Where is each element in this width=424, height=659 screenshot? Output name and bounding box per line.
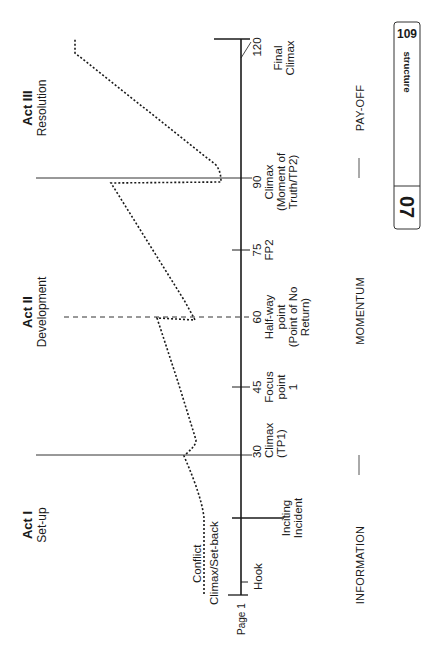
final-climax-label: Final Climax: [272, 40, 296, 75]
svg-text:(Point of No: (Point of No: [287, 287, 299, 348]
phase-momentum: MOMENTUM: [354, 277, 366, 345]
marker-90-label: 90 Climax (Moment of Truth/TP2): [251, 152, 299, 211]
svg-text:FP2: FP2: [263, 239, 275, 260]
svg-text:Inciting: Inciting: [280, 500, 292, 536]
marker-60-label: 60 Half-way point (Point of No Return): [251, 287, 311, 348]
svg-text:1: 1: [287, 384, 299, 390]
svg-text:Act I: Act I: [20, 511, 35, 539]
hook-label: Hook: [252, 563, 264, 590]
svg-text:point: point: [275, 304, 287, 330]
svg-text:Act III: Act III: [20, 90, 35, 125]
svg-text:Climax: Climax: [263, 164, 275, 199]
chapter-number: 07: [396, 196, 418, 218]
svg-text:Half-way: Half-way: [263, 294, 275, 339]
marker-45-label: 45 Focus point 1: [251, 371, 299, 403]
page-number: 109: [397, 27, 417, 41]
act-1-label: Act I Set-up: [20, 507, 49, 543]
svg-text:Incident: Incident: [292, 497, 304, 538]
marker-75-label: 75 FP2: [251, 239, 275, 260]
conflict-curve: [75, 38, 221, 594]
svg-text:Final: Final: [272, 46, 284, 71]
svg-text:75: 75: [251, 244, 263, 257]
marker-30-label: 30 Climax (TP1): [251, 423, 287, 458]
act-2-label: Act II Development: [20, 276, 49, 347]
conflict-label: Conflict: [191, 544, 203, 583]
svg-text:Climax: Climax: [284, 40, 296, 75]
svg-text:Act II: Act II: [20, 296, 35, 328]
page-1-label: Page 1: [236, 603, 247, 635]
svg-text:(TP1): (TP1): [275, 429, 287, 458]
act-3-label: Act III Resolution: [20, 80, 49, 137]
svg-text:(Moment of: (Moment of: [275, 152, 287, 211]
svg-text:30: 30: [251, 445, 263, 458]
svg-text:Set-up: Set-up: [35, 507, 49, 543]
svg-text:Resolution: Resolution: [35, 80, 49, 137]
svg-text:Climax: Climax: [263, 423, 275, 458]
marker-120-value: 120: [251, 37, 263, 56]
svg-text:45: 45: [251, 381, 263, 394]
svg-text:60: 60: [251, 311, 263, 324]
climax-setback-label: Climax/Set-back: [208, 521, 220, 605]
svg-text:90: 90: [251, 176, 263, 189]
svg-text:point: point: [275, 374, 287, 400]
svg-text:Focus: Focus: [263, 371, 275, 403]
svg-text:Development: Development: [35, 276, 49, 347]
inciting-incident-label: Inciting Incident: [280, 497, 304, 538]
svg-text:Truth/TP2): Truth/TP2): [287, 155, 299, 210]
three-act-structure-diagram: Act III Resolution Act II Development Ac…: [0, 0, 424, 659]
svg-text:Return): Return): [299, 298, 311, 337]
section-name: structure: [402, 51, 413, 92]
phase-payoff: PAY-OFF: [354, 85, 366, 132]
final-climax-leader: [241, 42, 251, 58]
phase-information: INFORMATION: [354, 526, 366, 604]
